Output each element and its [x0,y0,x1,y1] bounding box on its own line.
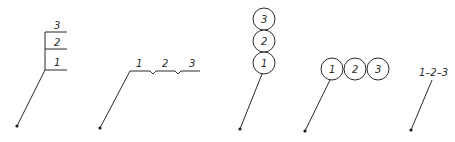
leader-line [240,74,262,129]
notched-shelf [130,71,200,74]
variant-shelf-stack: 3 2 1 [15,20,67,128]
layer-label-1: 1 [329,64,335,75]
layer-label-1: 1 [136,58,142,69]
variant-dash-sequence: 1–2–3 [409,67,448,132]
variant-horizontal-circles: 1 2 3 [303,58,389,133]
layer-label-3: 3 [261,14,267,25]
leader-dot [409,128,412,131]
leader-dot [98,126,101,129]
layer-label-2: 2 [54,37,60,48]
layer-label-1: 1 [54,57,60,68]
leader-dot [303,129,306,132]
layer-label-1: 1 [261,58,267,69]
layer-label-2: 2 [162,58,168,69]
leader-dot [15,124,18,127]
layer-label-2: 2 [352,64,358,75]
layer-label-3: 3 [54,20,60,31]
variant-horizontal-notched: 1 2 3 [98,58,200,130]
leader-line [17,70,45,126]
layer-label-2: 2 [261,36,267,47]
leader-notation-diagram: 3 2 1 1 2 3 3 2 1 1 2 3 1–2–3 [0,0,455,142]
variant-vertical-circles: 3 2 1 [238,8,275,131]
layer-sequence-label: 1–2–3 [419,67,448,78]
leader-line [305,80,330,131]
leader-line [100,71,130,128]
layer-label-3: 3 [375,64,381,75]
leader-dot [238,127,241,130]
leader-line [411,80,432,130]
layer-label-3: 3 [189,58,195,69]
